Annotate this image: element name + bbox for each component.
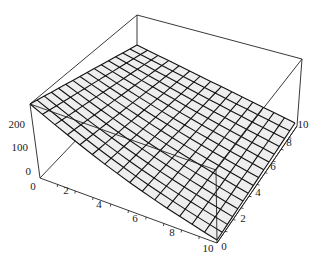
z-tick-label: 0 (26, 165, 32, 177)
x-tick-label: 6 (132, 212, 138, 224)
y-tick-label: 2 (240, 212, 246, 224)
y-tick-label: 4 (255, 186, 261, 198)
box-edge (40, 136, 80, 178)
z-tick-label: 100 (12, 141, 29, 153)
y-tick (225, 231, 228, 232)
y-tick (233, 220, 236, 221)
x-tick-label: 10 (203, 242, 215, 254)
x-tick (128, 211, 129, 214)
x-tick-label: 0 (30, 180, 36, 192)
surface-mesh (30, 45, 297, 243)
y-tick-label: 10 (298, 118, 310, 130)
surface-plot-3d: 024681002468102001000 (0, 0, 317, 262)
x-tick-label: 8 (169, 226, 175, 238)
x-tick (163, 224, 164, 227)
y-tick (265, 173, 268, 174)
x-tick-label: 2 (63, 184, 69, 196)
x-tick (110, 204, 111, 207)
box-edge (137, 15, 302, 59)
y-tick-label: 8 (286, 136, 292, 148)
x-tick (181, 230, 182, 233)
x-tick (146, 217, 147, 220)
z-tick-label: 200 (9, 118, 26, 130)
x-tick (75, 191, 76, 194)
box-edge (262, 59, 302, 110)
y-tick (281, 149, 284, 150)
y-tick (257, 185, 260, 186)
box-edge (297, 59, 302, 126)
x-tick (57, 185, 58, 188)
y-tick (249, 196, 252, 197)
x-tick-label: 4 (96, 198, 102, 210)
y-tick-label: 6 (270, 160, 276, 172)
x-tick (93, 198, 94, 201)
y-tick (241, 208, 244, 209)
y-tick-label: 0 (221, 240, 227, 252)
x-tick (199, 237, 200, 240)
z-axis-line (30, 104, 40, 178)
